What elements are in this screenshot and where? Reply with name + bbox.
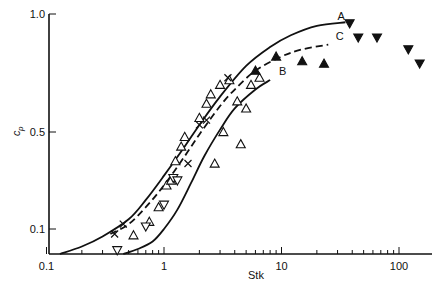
x-tick-label: 0.1 — [39, 260, 54, 272]
y-tick-label: 0.1 — [30, 223, 45, 235]
cross-marker — [196, 121, 203, 128]
open-triangle-up-marker — [242, 104, 251, 112]
cross-marker — [203, 117, 210, 124]
open-triangle-up-marker — [129, 231, 138, 239]
cross-marker — [184, 160, 191, 167]
open-triangle-up-marker — [206, 90, 215, 98]
open-triangle-up-marker — [180, 132, 189, 140]
open-triangle-up-marker — [216, 80, 225, 88]
x-axis-label: Stk — [248, 269, 264, 281]
x-tick-label: 10 — [275, 260, 287, 272]
curve-labels: ACB — [279, 10, 346, 77]
x-tick-label: 100 — [390, 260, 408, 272]
filled-triangle-down-marker — [373, 34, 382, 42]
y-axis-label-subscript: p — [16, 126, 25, 132]
x-tick-label: 1 — [161, 260, 167, 272]
curve-c — [110, 45, 328, 234]
y-tick-label: 0.5 — [30, 126, 45, 138]
filled-triangle-down-marker — [404, 46, 413, 54]
filled-triangle-up-marker — [298, 57, 307, 65]
filled-triangle-up-marker — [320, 59, 329, 67]
axes — [49, 14, 432, 254]
filled-triangle-down-marker — [345, 20, 354, 28]
open-triangle-up-marker — [171, 157, 180, 165]
open-triangle-up-marker — [236, 140, 245, 148]
curve-label-b: B — [279, 65, 286, 77]
open-triangle-up-marker — [202, 99, 211, 107]
curve-label-c: C — [336, 30, 344, 42]
filled-triangle-up-marker — [272, 52, 281, 60]
open-triangle-up-marker — [233, 97, 242, 105]
filled-triangle-up-marker — [251, 66, 260, 74]
chart: 0.11101001.00.50.1 ACB Stk c p — [0, 0, 441, 289]
open-triangle-up-marker — [246, 80, 255, 88]
y-tick-label: 1.0 — [30, 8, 45, 20]
filled-triangle-down-marker — [354, 34, 363, 42]
open-triangle-up-marker — [210, 159, 219, 167]
curve-label-a: A — [338, 10, 346, 22]
filled-triangle-down-marker — [415, 60, 424, 68]
open-triangle-up-marker — [195, 113, 204, 121]
data-points — [111, 20, 424, 255]
tick-labels: 0.11101001.00.50.1 — [30, 8, 408, 272]
open-triangle-down-marker — [141, 223, 150, 231]
